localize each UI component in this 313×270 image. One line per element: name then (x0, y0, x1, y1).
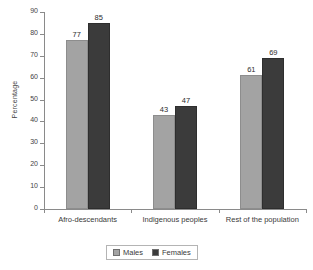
bar-female-2[interactable] (262, 58, 284, 209)
y-tick-label-30: 30 (22, 138, 38, 145)
bar-female-1[interactable] (175, 106, 197, 209)
bar-value-label-female-0: 85 (84, 13, 114, 22)
y-tick-label-40: 40 (22, 116, 38, 123)
bar-female-0[interactable] (88, 23, 110, 209)
y-tick-80 (40, 34, 44, 35)
bar-male-1[interactable] (153, 115, 175, 209)
category-label-2: Rest of the population (207, 215, 313, 224)
bar-value-label-female-1: 47 (171, 96, 201, 105)
legend-item-females: Females (152, 248, 191, 257)
y-tick-30 (40, 143, 44, 144)
y-axis-line (44, 12, 45, 209)
y-tick-label-0: 0 (22, 204, 38, 211)
y-tick-20 (40, 165, 44, 166)
x-tick-1 (131, 209, 132, 213)
legend-swatch-females-icon (152, 249, 159, 256)
x-tick-0 (44, 209, 45, 213)
y-tick-label-50: 50 (22, 95, 38, 102)
y-tick-label-90: 90 (22, 7, 38, 14)
bar-group-2: 6169 (240, 12, 284, 209)
bar-group-1: 4347 (153, 12, 197, 209)
legend-item-males: Males (113, 248, 143, 257)
y-tick-label-60: 60 (22, 73, 38, 80)
y-tick-40 (40, 121, 44, 122)
x-tick-3 (306, 209, 307, 213)
y-tick-60 (40, 78, 44, 79)
bar-value-label-female-2: 69 (258, 48, 288, 57)
y-tick-label-80: 80 (22, 29, 38, 36)
y-tick-50 (40, 100, 44, 101)
y-tick-label-10: 10 (22, 182, 38, 189)
y-tick-label-20: 20 (22, 160, 38, 167)
y-tick-10 (40, 187, 44, 188)
bar-group-0: 7785 (66, 12, 110, 209)
legend-swatch-males-icon (113, 249, 120, 256)
bar-chart: Percentage 0102030405060708090 778543476… (0, 0, 313, 270)
y-tick-90 (40, 12, 44, 13)
plot-area: 0102030405060708090 778543476169 Afro-de… (44, 12, 306, 209)
bar-male-0[interactable] (66, 40, 88, 209)
legend-label-males: Males (123, 248, 143, 257)
x-tick-2 (219, 209, 220, 213)
bar-male-2[interactable] (240, 75, 262, 209)
y-tick-70 (40, 56, 44, 57)
x-axis-line (44, 209, 306, 210)
legend-label-females: Females (162, 248, 191, 257)
y-axis-title: Percentage (11, 60, 18, 140)
chart-legend: Males Females (106, 245, 198, 260)
y-tick-label-70: 70 (22, 51, 38, 58)
